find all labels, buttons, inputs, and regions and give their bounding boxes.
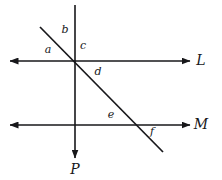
line-label-M: M [194,117,208,131]
angle-label-c: c [80,40,86,51]
lines-group [10,5,190,158]
angle-label-a: a [45,44,52,55]
geometry-canvas [0,0,222,180]
line-label-P: P [70,162,79,176]
angle-label-d: d [94,66,101,77]
angle-label-b: b [61,24,68,35]
geometry-figure: L M P a b c d e f [0,0,222,180]
line-label-L: L [196,53,205,67]
transversal-stroke [40,27,163,152]
angle-label-f: f [150,126,154,137]
angle-label-e: e [108,109,115,120]
